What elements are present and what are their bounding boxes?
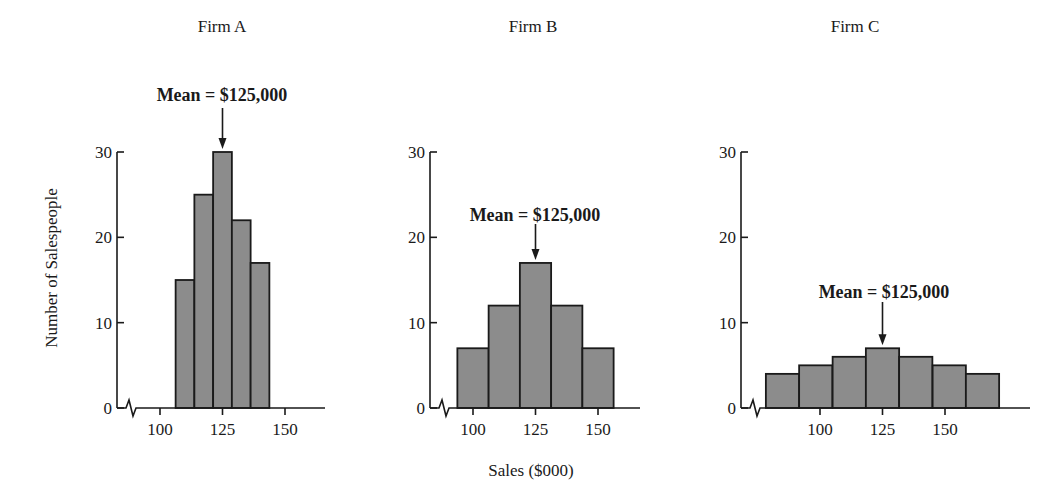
x-tick-label: 150 xyxy=(272,420,298,439)
histogram-bars xyxy=(457,263,613,408)
arrow-down-icon xyxy=(879,334,887,345)
x-tick-label: 125 xyxy=(870,420,896,439)
x-tick-label: 125 xyxy=(523,420,549,439)
histogram-bar xyxy=(933,365,966,408)
chart-panels: Firm A0102030100125150Mean = $125,000Fir… xyxy=(95,17,1030,439)
histogram-figure: Firm A0102030100125150Mean = $125,000Fir… xyxy=(0,0,1052,502)
y-tick-label: 20 xyxy=(408,228,425,247)
histogram-bar xyxy=(176,280,195,408)
histogram-bar xyxy=(232,220,251,408)
histogram-chart-canvas: Firm A0102030100125150Mean = $125,000Fir… xyxy=(0,0,1052,502)
histogram-bar xyxy=(520,263,551,408)
arrow-down-icon xyxy=(219,138,227,149)
panel-firm-c: Firm C0102030100125150Mean = $125,000 xyxy=(719,17,1030,439)
panel-firm-b: Firm B0102030100125150Mean = $125,000 xyxy=(408,17,640,439)
x-tick-label: 125 xyxy=(210,420,236,439)
histogram-bar xyxy=(194,195,213,408)
panel-title: Firm B xyxy=(509,17,558,36)
histogram-bar xyxy=(866,348,899,408)
x-tick-label: 150 xyxy=(585,420,611,439)
arrow-down-icon xyxy=(532,249,540,260)
mean-annotation: Mean = $125,000 xyxy=(470,205,601,225)
histogram-bar xyxy=(251,263,270,408)
y-tick-label: 30 xyxy=(408,143,425,162)
x-tick-label: 100 xyxy=(807,420,833,439)
y-axis-label: Number of Salespeople xyxy=(42,188,61,348)
histogram-bar xyxy=(457,348,488,408)
y-tick-label: 20 xyxy=(95,228,112,247)
y-tick-label: 0 xyxy=(417,399,426,418)
panel-firm-a: Firm A0102030100125150Mean = $125,000 xyxy=(95,17,325,439)
y-tick-label: 10 xyxy=(408,314,425,333)
y-tick-label: 30 xyxy=(95,143,112,162)
y-tick-label: 30 xyxy=(719,143,736,162)
histogram-bar xyxy=(799,365,832,408)
histogram-bars xyxy=(176,152,270,408)
mean-annotation: Mean = $125,000 xyxy=(819,282,950,302)
histogram-bar xyxy=(213,152,232,408)
y-tick-label: 20 xyxy=(719,228,736,247)
y-tick-label: 10 xyxy=(95,314,112,333)
x-tick-label: 100 xyxy=(147,420,173,439)
panel-title: Firm A xyxy=(198,17,247,36)
x-tick-label: 100 xyxy=(460,420,486,439)
x-tick-label: 150 xyxy=(932,420,958,439)
histogram-bars xyxy=(766,348,999,408)
panel-title: Firm C xyxy=(831,17,880,36)
y-tick-label: 10 xyxy=(719,314,736,333)
histogram-bar xyxy=(766,374,799,408)
y-tick-label: 0 xyxy=(728,399,737,418)
histogram-bar xyxy=(551,306,582,408)
histogram-bar xyxy=(899,357,932,408)
mean-annotation: Mean = $125,000 xyxy=(157,85,288,105)
histogram-bar xyxy=(966,374,999,408)
y-tick-label: 0 xyxy=(104,399,113,418)
histogram-bar xyxy=(582,348,613,408)
histogram-bar xyxy=(489,306,520,408)
histogram-bar xyxy=(833,357,866,408)
x-axis-label: Sales ($000) xyxy=(488,461,573,480)
